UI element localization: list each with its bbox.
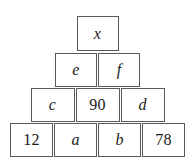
pyramid-cell-label: b [115, 132, 123, 148]
pyramid-cell-r4c1: 12 [10, 123, 53, 157]
pyramid-cell-r4c3: b [98, 123, 141, 157]
pyramid-cell-label: x [94, 26, 101, 42]
pyramid-cell-r2c2: f [98, 53, 140, 87]
pyramid-cell-r3c3: d [121, 88, 165, 122]
pyramid-cell-r3c2: 90 [76, 88, 120, 122]
pyramid-cell-label: f [117, 62, 122, 78]
pyramid-cell-r4c4: 78 [142, 123, 185, 157]
pyramid-cell-r1c1: x [77, 16, 119, 51]
pyramid-row-4: 12 a b 78 [0, 123, 195, 157]
pyramid-cell-r3c1: c [31, 88, 75, 122]
pyramid-cell-r2c1: e [55, 53, 97, 87]
pyramid-cell-label: 78 [155, 132, 171, 148]
pyramid-row-3: c 90 d [0, 88, 195, 122]
pyramid-cell-label: c [49, 97, 56, 113]
pyramid-row-2: e f [0, 53, 195, 87]
pyramid-cell-label: 12 [23, 132, 39, 148]
pyramid-cell-label: 90 [89, 97, 105, 113]
pyramid-cell-label: e [72, 62, 79, 78]
pyramid-cell-label: d [138, 97, 146, 113]
pyramid-cell-r4c2: a [54, 123, 97, 157]
pyramid-row-1: x [0, 16, 195, 51]
pyramid-cell-label: a [71, 132, 79, 148]
number-pyramid-diagram: x e f c 90 d 12 a b 78 [0, 0, 195, 165]
